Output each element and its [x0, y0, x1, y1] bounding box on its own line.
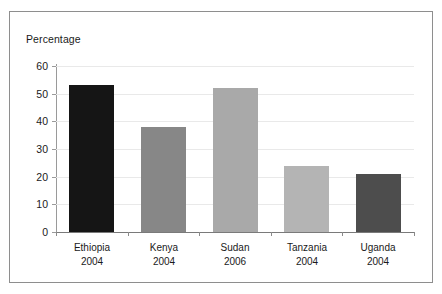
y-tick-label: 40	[18, 116, 48, 127]
x-axis-label-kenya: Kenya2004	[128, 241, 200, 268]
y-tick-label: 60	[18, 61, 48, 72]
x-tick-mark	[56, 232, 57, 236]
bar-uganda	[356, 174, 401, 232]
x-label-country: Ethiopia	[56, 241, 128, 255]
x-tick-mark	[271, 232, 272, 236]
y-tick-mark	[52, 94, 56, 95]
x-label-country: Sudan	[199, 241, 271, 255]
bar-chart-figure: Percentage 0102030405060 Ethiopia2004Ken…	[0, 0, 442, 294]
x-tick-mark	[342, 232, 343, 236]
y-tick-label: 20	[18, 172, 48, 183]
x-tick-mark	[414, 232, 415, 236]
gridline	[56, 66, 414, 67]
y-tick-label: 30	[18, 144, 48, 155]
x-label-year: 2004	[342, 255, 414, 269]
y-tick-mark	[52, 204, 56, 205]
y-tick-label: 0	[18, 227, 48, 238]
bar-sudan	[213, 88, 258, 232]
x-label-year: 2006	[199, 255, 271, 269]
x-tick-mark	[199, 232, 200, 236]
x-label-year: 2004	[56, 255, 128, 269]
y-tick-mark	[52, 149, 56, 150]
x-label-country: Tanzania	[271, 241, 343, 255]
x-label-country: Uganda	[342, 241, 414, 255]
y-tick-mark	[52, 121, 56, 122]
x-axis-label-ethiopia: Ethiopia2004	[56, 241, 128, 268]
x-axis-label-uganda: Uganda2004	[342, 241, 414, 268]
x-axis-label-tanzania: Tanzania2004	[271, 241, 343, 268]
x-label-year: 2004	[128, 255, 200, 269]
bar-tanzania	[284, 166, 329, 232]
bar-kenya	[141, 127, 186, 232]
x-tick-mark	[128, 232, 129, 236]
bar-ethiopia	[69, 85, 114, 232]
y-tick-label: 50	[18, 89, 48, 100]
y-tick-mark	[52, 66, 56, 67]
x-axis-label-sudan: Sudan2006	[199, 241, 271, 268]
y-tick-mark	[52, 177, 56, 178]
x-label-year: 2004	[271, 255, 343, 269]
x-axis-line	[56, 232, 415, 233]
y-axis-title: Percentage	[26, 33, 81, 45]
x-label-country: Kenya	[128, 241, 200, 255]
y-tick-label: 10	[18, 199, 48, 210]
